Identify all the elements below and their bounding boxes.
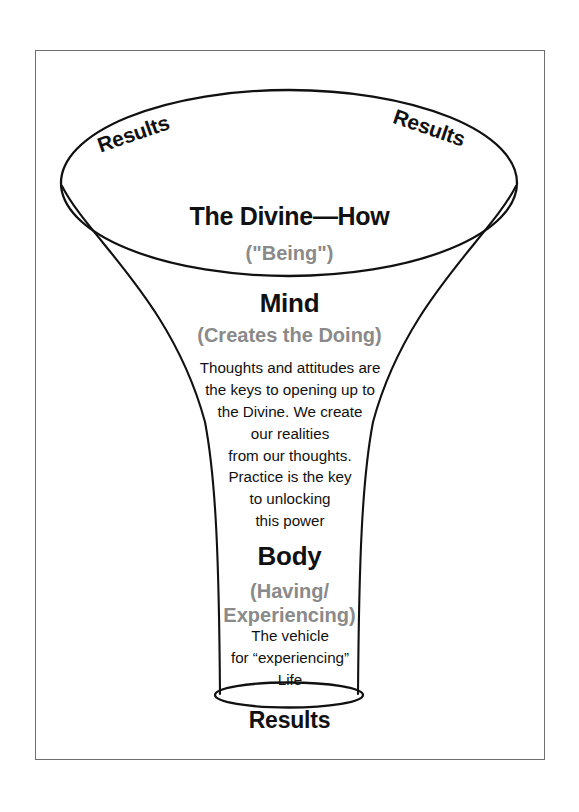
mind-title: Mind xyxy=(0,290,579,317)
body-subtitle: (Having/Experiencing) xyxy=(0,580,579,627)
body-body-text: The vehiclefor “experiencing”Life xyxy=(175,625,405,691)
divine-title: The Divine—How xyxy=(0,204,579,230)
mind-body-text: Thoughts and attitudes arethe keys to op… xyxy=(155,357,425,532)
divine-subtitle: ("Being") xyxy=(0,243,579,263)
body-title: Body xyxy=(0,543,579,570)
mind-subtitle: (Creates the Doing) xyxy=(0,325,579,345)
diagram-page: Results Results The Divine—How ("Being")… xyxy=(0,0,579,812)
results-label-bottom: Results xyxy=(0,709,579,732)
